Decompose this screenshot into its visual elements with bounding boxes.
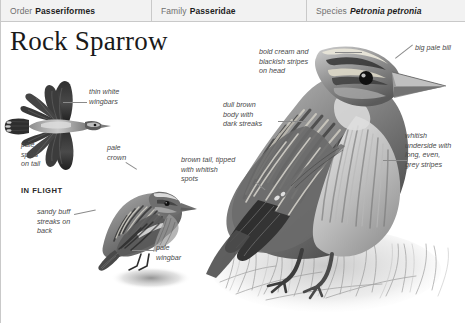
annotation-sandy-buff-streaks: sandy buff streaks on back [37, 207, 70, 236]
taxonomy-cell-order: Order Passeriformes [1, 0, 151, 21]
taxonomy-bar: Order Passeriformes Family Passeridae Sp… [1, 0, 465, 22]
annotation-whitish-underside: whitish underside with long, even, grey … [405, 131, 451, 170]
plate-page: Order Passeriformes Family Passeridae Sp… [0, 0, 465, 323]
annotation-dull-brown-body: dull brown body with dark streaks [223, 100, 262, 129]
leader-thin-white-wingbars [63, 102, 87, 103]
leader-sandy-buff-streaks [74, 209, 96, 215]
taxonomy-cell-species: Species Petronia petronia [306, 0, 465, 21]
taxonomy-key-family: Family [161, 6, 187, 16]
leader-pale-wingbar [132, 250, 154, 251]
rock-sparrow-tail-detail [269, 140, 349, 210]
annotation-thin-white-wingbars: thin white wingbars [89, 87, 119, 106]
annotation-brown-tail: brown tail, tipped with whitish spots [181, 155, 235, 184]
annotation-pale-crown: pale crown [107, 143, 126, 162]
leader-bold-cream-stripes [335, 52, 362, 53]
leader-dull-brown-body [278, 121, 306, 122]
annotation-big-pale-bill: big pale bill [415, 43, 451, 53]
leader-whitish-underside [383, 160, 407, 161]
page-title: Rock Sparrow [10, 27, 168, 55]
taxonomy-cell-family: Family Passeridae [151, 0, 306, 21]
annotation-in-flight: IN FLIGHT [21, 186, 63, 196]
taxonomy-value-order: Passeriformes [35, 6, 95, 16]
taxonomy-value-family: Passeridae [190, 6, 236, 16]
annotation-pale-spots-on-tail: pale spots on tail [21, 140, 40, 169]
taxonomy-key-order: Order [10, 6, 32, 16]
taxonomy-value-species: Petronia petronia [350, 6, 422, 16]
annotation-bold-cream-stripes: bold cream and blackish stripes on head [259, 47, 309, 76]
annotation-pale-wingbar: pale wingbar [156, 243, 181, 262]
taxonomy-key-species: Species [316, 6, 347, 16]
